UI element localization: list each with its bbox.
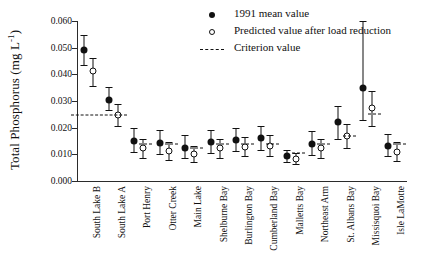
legend-item: Criterion value bbox=[196, 40, 418, 57]
data-point bbox=[165, 148, 172, 155]
data-point bbox=[309, 141, 316, 148]
chart-figure: Total Phosphorus (mg L-1) 0.0600.0500.04… bbox=[0, 0, 422, 269]
error-bar-cap bbox=[309, 155, 316, 156]
data-point bbox=[283, 153, 290, 160]
criterion-line bbox=[216, 143, 229, 144]
criterion-line bbox=[343, 136, 356, 137]
error-bar-cap bbox=[216, 158, 223, 159]
legend-label: 1991 mean value bbox=[234, 7, 309, 19]
y-axis-tick-label: 0.040 bbox=[51, 69, 72, 79]
error-bar-cap bbox=[89, 86, 96, 87]
error-bar-cap bbox=[368, 126, 375, 127]
error-bar-cap bbox=[258, 126, 265, 127]
error-bar-cap bbox=[318, 158, 325, 159]
error-bar-cap bbox=[283, 150, 290, 151]
error-bar-cap bbox=[115, 126, 122, 127]
data-point bbox=[359, 84, 366, 91]
data-point bbox=[242, 143, 249, 150]
error-bar-cap bbox=[89, 58, 96, 59]
error-bar-cap bbox=[106, 110, 113, 111]
error-bar-cap bbox=[283, 162, 290, 163]
error-bar-cap bbox=[385, 134, 392, 135]
y-axis-tick-label: 0.030 bbox=[51, 96, 72, 106]
error-bar-cap bbox=[242, 156, 249, 157]
error-bar-cap bbox=[106, 87, 113, 88]
error-bar-cap bbox=[165, 160, 172, 161]
x-axis-category-label: Cumberland Bay bbox=[269, 186, 279, 266]
data-point bbox=[156, 140, 163, 147]
data-point bbox=[216, 145, 223, 152]
data-point bbox=[233, 137, 240, 144]
error-bar-cap bbox=[156, 130, 163, 131]
x-axis-category-label: Shelburne Bay bbox=[219, 186, 229, 266]
y-axis-label: Total Phosphorus (mg L-1) bbox=[6, 14, 24, 186]
data-point bbox=[191, 151, 198, 158]
y-axis-tick-labels: 0.0600.0500.0400.0300.0200.0100.000 bbox=[28, 0, 72, 269]
criterion-line bbox=[190, 147, 203, 148]
legend-open-circle-icon bbox=[196, 23, 230, 40]
criterion-line bbox=[292, 153, 305, 154]
data-point bbox=[258, 134, 265, 141]
data-point bbox=[131, 138, 138, 145]
error-bar-cap bbox=[182, 158, 189, 159]
data-point bbox=[140, 145, 147, 152]
error-bar-cap bbox=[216, 139, 223, 140]
data-point bbox=[80, 47, 87, 54]
criterion-line bbox=[241, 143, 254, 144]
x-axis-category-label: Otter Creek bbox=[168, 186, 178, 266]
x-axis-category-label: Main Lake bbox=[193, 186, 203, 266]
criterion-line bbox=[165, 143, 178, 144]
x-axis-category-label: Burlington Bay bbox=[244, 186, 254, 266]
error-bar-cap bbox=[267, 156, 274, 157]
error-bar-cap bbox=[233, 128, 240, 129]
data-point bbox=[106, 96, 113, 103]
error-bar-cap bbox=[140, 158, 147, 159]
chart-legend: 1991 mean valuePredicted value after loa… bbox=[196, 6, 418, 57]
error-bar-cap bbox=[292, 164, 299, 165]
y-axis-tick-label: 0.060 bbox=[51, 16, 72, 26]
error-bar-cap bbox=[115, 104, 122, 105]
error-bar-cap bbox=[233, 151, 240, 152]
error-bar-cap bbox=[182, 135, 189, 136]
data-point bbox=[334, 118, 341, 125]
x-axis-category-label: South Lake B bbox=[92, 186, 102, 266]
x-axis-category-label: Malletts Bay bbox=[295, 186, 305, 266]
y-axis-label-superscript: -1 bbox=[6, 34, 16, 42]
criterion-line bbox=[393, 143, 406, 144]
error-bar-cap bbox=[242, 137, 249, 138]
error-bar-cap bbox=[343, 148, 350, 149]
criterion-line bbox=[368, 114, 381, 115]
data-point bbox=[182, 144, 189, 151]
error-bar-cap bbox=[385, 156, 392, 157]
criterion-line bbox=[139, 143, 152, 144]
legend-dashed-line-icon bbox=[196, 40, 230, 57]
data-point bbox=[385, 142, 392, 149]
error-bar-cap bbox=[80, 65, 87, 66]
legend-label: Criterion value bbox=[234, 41, 300, 53]
y-axis-tick-label: 0.020 bbox=[51, 123, 72, 133]
y-axis-label-main: Total Phosphorus (mg L bbox=[7, 42, 22, 170]
legend-filled-circle-icon bbox=[196, 6, 230, 23]
y-axis-label-tail: ) bbox=[7, 30, 22, 34]
x-axis-category-label: South Lake A bbox=[117, 186, 127, 266]
error-bar-cap bbox=[267, 135, 274, 136]
criterion-line bbox=[317, 143, 330, 144]
error-bar-cap bbox=[359, 120, 366, 121]
error-bar-cap bbox=[394, 161, 401, 162]
data-point bbox=[292, 156, 299, 163]
x-axis-category-label: Missisquoi Bay bbox=[371, 186, 381, 266]
error-bar-cap bbox=[207, 153, 214, 154]
error-bar-cap bbox=[258, 150, 265, 151]
y-axis-tick-label: 0.050 bbox=[51, 43, 72, 53]
x-axis-line bbox=[77, 181, 407, 182]
y-axis-tick-label: 0.000 bbox=[51, 176, 72, 186]
x-axis-category-label: Port Henry bbox=[142, 186, 152, 266]
data-point bbox=[89, 68, 96, 75]
error-bar-cap bbox=[191, 162, 198, 163]
data-point bbox=[207, 139, 214, 146]
error-bar-cap bbox=[131, 152, 138, 153]
legend-item: 1991 mean value bbox=[196, 6, 418, 23]
data-point bbox=[318, 145, 325, 152]
error-bar-cap bbox=[156, 154, 163, 155]
data-point bbox=[394, 149, 401, 156]
